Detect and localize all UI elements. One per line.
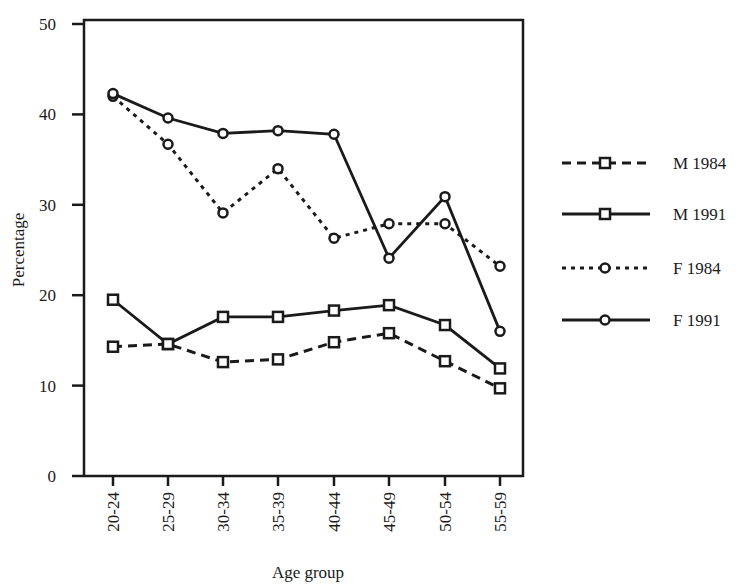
data-point	[164, 114, 173, 123]
x-axis: 20-2425-2930-3435-3940-4445-4950-5455-59	[104, 476, 510, 532]
data-point	[218, 312, 228, 322]
data-point	[108, 295, 118, 305]
data-point	[163, 339, 173, 349]
line-chart: 01020304050 20-2425-2930-3435-3940-4445-…	[0, 0, 743, 587]
x-tick-label: 30-34	[214, 492, 233, 532]
data-point	[384, 300, 394, 310]
data-point	[495, 363, 505, 373]
data-point	[219, 129, 228, 138]
y-tick-label: 30	[39, 196, 56, 215]
data-point	[330, 234, 339, 243]
data-point	[384, 328, 394, 338]
data-point	[329, 306, 339, 316]
legend-label: F 1991	[673, 311, 721, 330]
data-point	[273, 354, 283, 364]
data-point	[495, 383, 505, 393]
plot-frame	[84, 20, 523, 476]
x-tick-label: 25-29	[159, 492, 178, 532]
legend-item: F 1991	[562, 311, 721, 330]
data-point	[496, 262, 505, 271]
series-layer	[108, 89, 505, 393]
legend: M 1984M 1991F 1984F 1991	[562, 154, 727, 330]
y-axis: 01020304050	[39, 15, 84, 486]
data-point	[274, 164, 283, 173]
data-point	[330, 130, 339, 139]
plot-border	[84, 20, 523, 476]
data-point	[109, 89, 118, 98]
x-tick-label: 20-24	[104, 492, 123, 532]
data-point	[218, 357, 228, 367]
data-point	[164, 140, 173, 149]
data-point	[385, 219, 394, 228]
series-f-1991	[109, 89, 505, 336]
data-point	[441, 192, 450, 201]
data-point	[496, 327, 505, 336]
y-tick-label: 10	[39, 377, 56, 396]
legend-square-marker	[600, 209, 610, 219]
data-point	[329, 337, 339, 347]
legend-label: M 1984	[673, 154, 727, 173]
y-axis-title: Percentage	[9, 213, 28, 288]
x-tick-label: 55-59	[491, 492, 510, 532]
y-tick-label: 40	[39, 105, 56, 124]
data-point	[108, 342, 118, 352]
data-point	[440, 356, 450, 366]
data-point	[219, 208, 228, 217]
y-tick-label: 20	[39, 286, 56, 305]
x-tick-label: 40-44	[325, 492, 344, 532]
x-axis-title: Age group	[272, 563, 344, 582]
legend-item: M 1991	[562, 205, 726, 224]
x-tick-label: 50-54	[436, 492, 455, 532]
legend-circle-marker	[601, 316, 610, 325]
y-tick-label: 0	[48, 467, 57, 486]
legend-label: M 1991	[673, 205, 726, 224]
data-point	[274, 126, 283, 135]
data-point	[441, 219, 450, 228]
legend-circle-marker	[601, 264, 610, 273]
data-point	[440, 320, 450, 330]
legend-item: M 1984	[562, 154, 727, 173]
y-tick-label: 50	[39, 15, 56, 34]
data-point	[273, 312, 283, 322]
legend-square-marker	[600, 158, 610, 168]
legend-label: F 1984	[673, 259, 721, 278]
x-tick-label: 35-39	[269, 492, 288, 532]
data-point	[385, 254, 394, 263]
x-tick-label: 45-49	[380, 492, 399, 532]
series-line	[113, 94, 500, 332]
legend-item: F 1984	[562, 259, 721, 278]
